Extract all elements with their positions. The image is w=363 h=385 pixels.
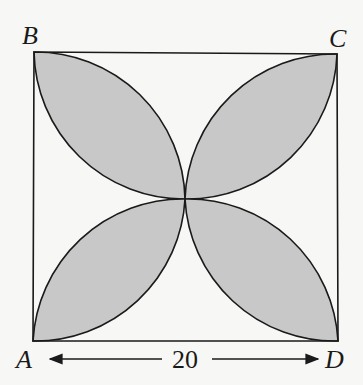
dimension-label: 20 — [172, 345, 198, 374]
square-petal-diagram: B C A D 20 — [0, 0, 363, 385]
vertex-label-b: B — [22, 21, 38, 50]
vertex-label-d: D — [324, 345, 344, 374]
petal-top-left — [34, 52, 185, 199]
petal-bottom-left — [33, 199, 185, 341]
vertex-label-a: A — [14, 345, 32, 374]
vertex-label-c: C — [329, 24, 347, 53]
petal-bottom-right — [185, 199, 338, 341]
petal-top-right — [185, 54, 337, 199]
